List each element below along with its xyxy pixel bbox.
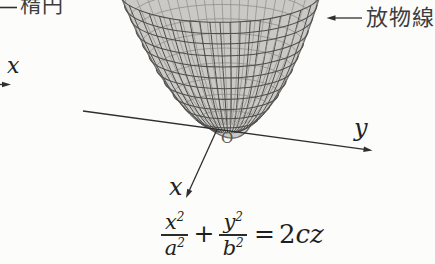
rhs-2cz: 2cz bbox=[279, 219, 324, 249]
denominator-b2: b2 bbox=[223, 236, 244, 259]
cropped-axis-arrowhead bbox=[2, 82, 11, 87]
ellipse-label: 楕円 bbox=[20, 0, 64, 16]
fraction-x2-a2: x2 a2 bbox=[161, 211, 188, 259]
fraction-y2-b2: y2 b2 bbox=[219, 211, 247, 259]
surface-equation: x2 a2 + y2 b2 = 2cz bbox=[161, 211, 324, 259]
cropped-x-axis-label: x bbox=[7, 55, 19, 77]
figure-canvas: 楕円 放物線 y x x O x2 a2 + y2 b2 = 2cz bbox=[0, 0, 435, 264]
denominator-a2: a2 bbox=[165, 236, 185, 259]
parabola-pointer-arrowhead bbox=[327, 15, 336, 20]
x-axis-line bbox=[190, 130, 218, 191]
y-axis-label: y bbox=[354, 116, 368, 140]
equals-sign: = bbox=[254, 219, 275, 248]
x-axis-arrowhead bbox=[186, 189, 192, 198]
x-axis-label: x bbox=[169, 175, 183, 199]
numerator-y2: y2 bbox=[219, 211, 247, 236]
plus-operator: + bbox=[193, 219, 214, 248]
y-axis-arrowhead bbox=[363, 147, 372, 153]
mesh-path bbox=[119, 0, 321, 138]
paraboloid-surface bbox=[119, 0, 321, 138]
origin-label: O bbox=[221, 131, 233, 146]
parabola-label: 放物線 bbox=[366, 7, 435, 29]
numerator-x2: x2 bbox=[161, 211, 188, 236]
